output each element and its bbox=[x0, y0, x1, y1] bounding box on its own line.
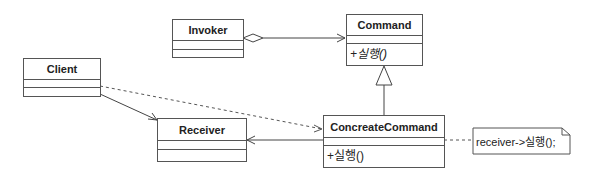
class-name: Command bbox=[347, 15, 422, 36]
aggregation-invoker-command bbox=[243, 34, 345, 42]
attributes-compartment bbox=[324, 138, 444, 146]
attributes-compartment bbox=[347, 36, 422, 44]
class-receiver[interactable]: Receiver bbox=[157, 118, 247, 162]
class-name: Invoker bbox=[173, 20, 243, 41]
operation-execute: +실행() bbox=[324, 146, 444, 167]
class-client[interactable]: Client bbox=[23, 58, 101, 97]
attributes-compartment bbox=[173, 41, 243, 50]
class-name: Client bbox=[24, 59, 100, 80]
note-text: receiver->실행(); bbox=[473, 128, 563, 154]
generalization-concrete-command bbox=[376, 66, 392, 115]
operations-compartment bbox=[24, 88, 100, 96]
operation-execute: +실행() bbox=[347, 44, 422, 65]
class-command[interactable]: Command +실행() bbox=[346, 14, 423, 66]
attributes-compartment bbox=[158, 141, 246, 150]
attributes-compartment bbox=[24, 80, 100, 88]
association-client-receiver bbox=[100, 94, 157, 120]
class-invoker[interactable]: Invoker bbox=[172, 19, 244, 58]
operations-compartment bbox=[173, 50, 243, 57]
class-name: Receiver bbox=[158, 119, 246, 141]
class-name: ConcreateCommand bbox=[324, 116, 444, 138]
class-concreatecommand[interactable]: ConcreateCommand +실행() bbox=[323, 115, 445, 168]
operations-compartment bbox=[158, 150, 246, 161]
association-concrete-receiver bbox=[247, 136, 323, 144]
